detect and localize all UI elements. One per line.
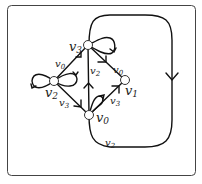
node-label-v1: v1	[125, 83, 138, 99]
arrow-self-loop-v3	[110, 48, 116, 52]
graph-diagram: v3 v2 v1 v0 v0 v3 v2 v0 v3 v2	[0, 0, 202, 184]
edge-label-v3-v1: v0	[113, 64, 124, 77]
node-label-v0: v0	[96, 110, 109, 126]
node-v0	[85, 111, 94, 120]
edge-outer-loop	[89, 15, 172, 147]
edge-label-v2-v0: v3	[59, 97, 70, 110]
node-v3	[84, 41, 93, 50]
edge-label-outer-loop: v2	[105, 137, 116, 150]
edge-v0-v3	[88, 45, 89, 115]
edge-label-v2-v3: v0	[55, 58, 66, 71]
edge-label-v0-v1: v3	[110, 95, 121, 108]
node-label-v2: v2	[45, 85, 58, 101]
edge-label-v0-v3: v2	[90, 65, 101, 78]
diagram-frame	[8, 6, 196, 176]
node-label-v3: v3	[69, 39, 82, 55]
